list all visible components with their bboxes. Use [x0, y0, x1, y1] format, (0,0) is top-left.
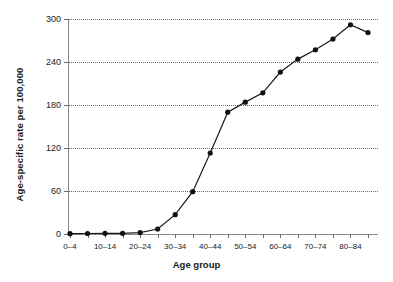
data-point — [260, 90, 265, 95]
y-tick-label: 180 — [46, 100, 61, 110]
y-axis-line — [68, 19, 69, 234]
x-tick-label: 10–14 — [94, 242, 116, 251]
x-tick-label: 50–54 — [234, 242, 256, 251]
x-tick-mark — [123, 234, 124, 238]
y-tick-label: 120 — [46, 143, 61, 153]
x-tick-mark — [158, 234, 159, 238]
y-axis-title-text: Age-specific rate per 100,000 — [15, 67, 26, 201]
x-tick-label: 30–34 — [164, 242, 186, 251]
y-tick-mark — [64, 62, 68, 63]
x-tick-mark — [298, 234, 299, 238]
y-tick-mark — [64, 19, 68, 20]
x-tick-label: 20–24 — [129, 242, 151, 251]
y-tick-label: 240 — [46, 57, 61, 67]
x-tick-mark — [350, 234, 351, 238]
x-tick-mark — [368, 234, 369, 238]
data-point — [278, 69, 283, 74]
grid-line — [68, 19, 378, 20]
data-series — [0, 0, 393, 282]
grid-line — [68, 62, 378, 63]
data-point — [208, 150, 213, 155]
grid-line — [68, 105, 378, 106]
series-markers — [67, 22, 370, 236]
grid-line — [68, 148, 378, 149]
x-tick-mark — [263, 234, 264, 238]
x-tick-label: 80–84 — [339, 242, 361, 251]
grid-line — [68, 191, 378, 192]
x-tick-label: 0–4 — [63, 242, 76, 251]
y-tick-label: 0 — [56, 229, 61, 239]
x-axis-title: Age group — [0, 259, 393, 270]
x-tick-label: 60–64 — [269, 242, 291, 251]
chart-figure: Age-specific rate per 100,000 0601201802… — [0, 0, 393, 282]
x-tick-mark — [315, 234, 316, 238]
x-tick-mark — [193, 234, 194, 238]
y-tick-label: 60 — [51, 186, 61, 196]
y-tick-mark — [64, 191, 68, 192]
data-point — [365, 30, 370, 35]
x-tick-mark — [210, 234, 211, 238]
x-tick-mark — [105, 234, 106, 238]
x-tick-mark — [280, 234, 281, 238]
x-tick-mark — [88, 234, 89, 238]
data-point — [225, 110, 230, 115]
y-tick-label: 300 — [46, 14, 61, 24]
y-tick-mark — [64, 148, 68, 149]
x-tick-mark — [245, 234, 246, 238]
x-tick-mark — [228, 234, 229, 238]
series-line — [70, 25, 368, 234]
x-tick-label: 40–44 — [199, 242, 221, 251]
y-tick-mark — [64, 234, 68, 235]
x-tick-label: 70–74 — [304, 242, 326, 251]
x-axis-title-text: Age group — [173, 259, 221, 270]
y-axis-title: Age-specific rate per 100,000 — [10, 0, 30, 282]
y-tick-mark — [64, 105, 68, 106]
data-point — [243, 100, 248, 105]
x-tick-mark — [333, 234, 334, 238]
x-axis-line — [68, 234, 378, 235]
data-point — [155, 226, 160, 231]
data-point — [313, 47, 318, 52]
x-tick-mark — [140, 234, 141, 238]
data-point — [330, 36, 335, 41]
x-tick-mark — [70, 234, 71, 238]
data-point — [348, 22, 353, 27]
data-point — [173, 212, 178, 217]
data-point — [295, 57, 300, 62]
x-tick-mark — [175, 234, 176, 238]
